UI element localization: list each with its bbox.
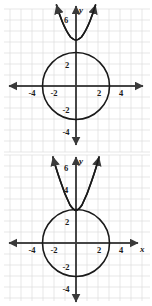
bottom-y-tick-6: 6 — [64, 163, 68, 173]
top-x-tick-neg4: -4 — [28, 88, 36, 98]
bottom-graph-svg: y x 6 4 2 -2 -4 -4 -2 2 4 — [0, 153, 152, 306]
top-x-tick-2: 2 — [97, 88, 101, 98]
top-graph-svg: y 6 2 -2 -4 -4 -2 2 4 — [0, 0, 152, 153]
bottom-y-tick-neg2: -2 — [62, 262, 69, 272]
bottom-x-tick-neg2: -2 — [50, 245, 57, 255]
top-y-tick-neg2: -2 — [62, 105, 69, 115]
bottom-y-tick-neg4: -4 — [62, 284, 70, 294]
top-y-tick-6: 6 — [64, 15, 68, 25]
bottom-x-tick-2: 2 — [97, 245, 101, 255]
top-graph-panel: y 6 2 -2 -4 -4 -2 2 4 — [0, 0, 152, 153]
top-y-tick-neg4: -4 — [62, 127, 70, 137]
top-x-tick-neg2: -2 — [50, 88, 57, 98]
bottom-y-tick-2: 2 — [65, 217, 69, 227]
bottom-graph-panel: y x 6 4 2 -2 -4 -4 -2 2 4 — [0, 153, 152, 306]
bottom-x-axis-label: x — [139, 244, 145, 254]
bottom-x-tick-neg4: -4 — [28, 245, 36, 255]
top-y-tick-2: 2 — [65, 60, 69, 70]
figure-container: y 6 2 -2 -4 -4 -2 2 4 — [0, 0, 152, 306]
